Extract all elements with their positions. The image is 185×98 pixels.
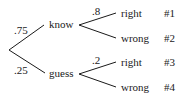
probability-tree-diagram: .75 .25 know guess .8 .2 right wrong rig… [0,0,185,98]
prob-know: .75 [14,24,28,36]
outcome-4: #4 [164,81,176,93]
leaf-know-wrong: wrong [121,32,150,44]
outcome-3: #3 [164,56,176,68]
edge-guess-wrong [79,74,116,87]
node-guess: guess [49,67,73,79]
node-know: know [49,18,74,30]
prob-know-right: .8 [92,5,101,17]
leaf-guess-right: right [121,56,142,68]
edge-know-wrong [79,25,116,38]
leaf-know-right: right [121,7,142,19]
outcome-1: #1 [164,7,175,19]
prob-guess-right: .2 [92,54,100,66]
prob-guess: .25 [14,64,28,76]
leaf-guess-wrong: wrong [121,81,150,93]
outcome-2: #2 [164,32,175,44]
